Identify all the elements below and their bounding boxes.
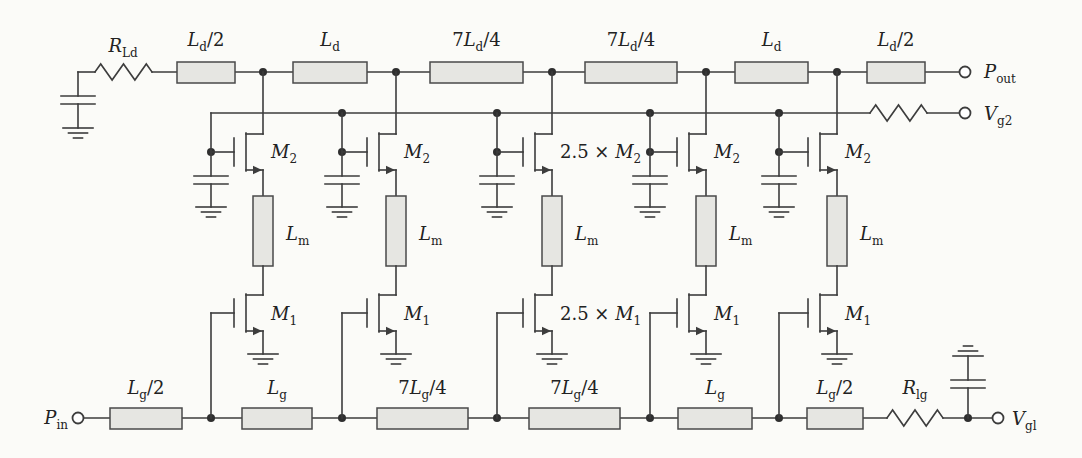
cell1-m1-transistor (234, 294, 263, 335)
cell5-lm-inductor (827, 196, 847, 266)
gate-line-inductor-5 (678, 408, 752, 429)
source-arrow-icon (253, 166, 262, 174)
source-arrow-icon (542, 166, 551, 174)
cell2-lm-inductor (386, 196, 406, 266)
source-arrow-icon (253, 327, 262, 335)
cell2-m1-label: M1 (403, 303, 430, 328)
cell3-lm-label: Lm (574, 223, 599, 248)
cell4-m2-label: M2 (713, 141, 740, 166)
drain-line-inductor-label-5: Ld (761, 29, 782, 54)
gate-line-inductor-label-5: Lg (704, 377, 725, 402)
drain-line-inductor-5 (735, 62, 808, 83)
cell4-m1-label: M1 (713, 303, 740, 328)
gate-termination-resistor-label: Rlg (901, 377, 927, 402)
drain-termination-resistor-label: RLd (107, 35, 138, 60)
drain-line-inductor-4 (585, 62, 677, 83)
gate2-terminal-label: Vg2 (984, 103, 1012, 128)
cell2-lm-label: Lm (418, 223, 443, 248)
cell1-m2-label: M2 (270, 141, 297, 166)
cell4-lm-inductor (696, 196, 716, 266)
drain-line-inductor-1 (177, 62, 235, 83)
cell5-m1-transistor (808, 294, 837, 335)
gate-line-inductor-label-2: Lg (266, 377, 287, 402)
gate-line-inductor-label-1: Lg/2 (126, 377, 164, 402)
schematic-svg: M2LmM1M2LmM12.5 × M2Lm2.5 × M1M2LmM1M2Lm… (0, 0, 1082, 458)
drain-line-inductor-3 (430, 62, 523, 83)
drain-line-inductor-label-2: Ld (319, 29, 340, 54)
drain-line-inductor-2 (293, 62, 367, 83)
source-arrow-icon (696, 327, 705, 335)
source-arrow-icon (542, 327, 551, 335)
source-arrow-icon (827, 166, 836, 174)
cell3-m2-label: 2.5 × M2 (560, 141, 641, 166)
cell5-m1-label: M1 (844, 303, 871, 328)
cell5-m2-label: M2 (844, 141, 871, 166)
cell2-m2-transistor (367, 133, 396, 174)
gate-line-inductor-label-4: 7Lg/4 (550, 377, 599, 402)
source-arrow-icon (386, 166, 395, 174)
cell4-lm-label: Lm (728, 223, 753, 248)
cell4-m2-transistor (677, 133, 706, 174)
cell3-lm-inductor (542, 196, 562, 266)
gate2-rail-resistor (870, 105, 927, 121)
drain-termination-resistor (95, 64, 152, 80)
cell5-m2-transistor (808, 133, 837, 174)
cell1-m2-transistor (234, 133, 263, 174)
gate-line-inductor-label-3: 7Lg/4 (398, 377, 447, 402)
cell5-lm-label: Lm (859, 223, 884, 248)
source-arrow-icon (386, 327, 395, 335)
output-terminal (960, 67, 971, 78)
cell1-m1-label: M1 (270, 303, 297, 328)
gate-line-inductor-2 (242, 408, 312, 429)
source-arrow-icon (696, 166, 705, 174)
gate-termination-resistor (887, 410, 943, 426)
gate-bias-terminal-label: Vgl (1012, 408, 1037, 433)
input-terminal (73, 413, 84, 424)
cell3-m2-transistor (523, 133, 552, 174)
gate-bias-terminal (993, 413, 1004, 424)
cell2-m2-label: M2 (403, 141, 430, 166)
drain-line-inductor-label-4: 7Ld/4 (607, 29, 656, 54)
gate-line-inductor-1 (110, 408, 182, 429)
drain-line-inductor-label-1: Ld/2 (186, 29, 224, 54)
gate-line-inductor-3 (377, 408, 468, 429)
gate-line-inductor-label-6: Lg/2 (815, 377, 853, 402)
input-terminal-label: Pin (43, 407, 68, 432)
cell3-m1-transistor (523, 294, 552, 335)
gate2-terminal (960, 108, 971, 119)
cell1-lm-inductor (253, 196, 273, 266)
cell4-m1-transistor (677, 294, 706, 335)
output-terminal-label: Pout (983, 61, 1016, 86)
drain-line-inductor-label-6: Ld/2 (876, 29, 914, 54)
gate-line-inductor-4 (529, 408, 620, 429)
gate-line-inductor-6 (807, 408, 863, 429)
cell2-m1-transistor (367, 294, 396, 335)
drain-line-inductor-label-3: 7Ld/4 (452, 29, 501, 54)
circuit-diagram: M2LmM1M2LmM12.5 × M2Lm2.5 × M1M2LmM1M2Lm… (0, 0, 1082, 458)
source-arrow-icon (827, 327, 836, 335)
drain-line-inductor-6 (867, 62, 925, 83)
cell3-m1-label: 2.5 × M1 (560, 303, 641, 328)
cell1-lm-label: Lm (285, 223, 310, 248)
